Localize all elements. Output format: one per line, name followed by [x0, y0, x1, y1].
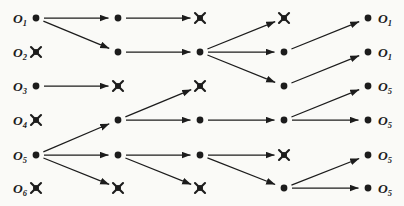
left-label-5: O5 [13, 148, 28, 166]
node-col3-row1 [281, 49, 288, 56]
node-col4-row3 [365, 117, 372, 124]
edge-arrow-c3r5-c4r4 [291, 158, 359, 185]
node-col0-row0 [33, 15, 40, 22]
right-label-5: O5 [378, 148, 393, 166]
node-col3-row5 [281, 185, 288, 192]
right-label-1: O1 [378, 11, 392, 29]
right-label-3: O5 [378, 79, 393, 97]
node-col4-row5 [365, 185, 372, 192]
node-col2-row1 [197, 49, 204, 56]
pruned-node-col2-row2 [195, 81, 205, 91]
node-col3-row2 [281, 83, 288, 90]
right-label-6: O5 [378, 181, 393, 199]
left-label-4: O4 [13, 113, 27, 131]
node-col1-row1 [115, 49, 122, 56]
hypothesis-graph-canvas: O1O2O3O4O5O6O1O1O5O5O5O5 [0, 0, 404, 206]
pruned-node-col0-row5 [31, 183, 41, 193]
pruned-node-col0-row3 [31, 115, 41, 125]
pruned-node-col1-row2 [113, 81, 123, 91]
edge-arrow-c2r4-c3r5 [207, 158, 275, 185]
labels-layer: O1O2O3O4O5O6O1O1O5O5O5O5 [13, 11, 393, 199]
node-col1-row0 [115, 15, 122, 22]
pruned-node-col0-row1 [31, 47, 41, 57]
edges-layer [43, 18, 359, 188]
node-col4-row2 [365, 83, 372, 90]
left-label-2: O2 [13, 45, 28, 63]
edge-arrow-c1r4-c2r5 [125, 158, 191, 184]
pruned-node-col3-row0 [279, 13, 289, 23]
edge-arrow-c2r1-c3r0 [207, 22, 275, 49]
node-col1-row4 [115, 152, 122, 159]
nodes-layer [31, 13, 371, 193]
pruned-node-col2-row5 [195, 183, 205, 193]
left-label-1: O1 [13, 11, 27, 29]
edge-arrow-c0r4-c1r5 [43, 158, 109, 184]
edge-arrow-c3r3-c4r2 [291, 90, 359, 117]
edge-arrow-c0r4-c1r3 [43, 124, 109, 152]
pruned-node-col2-row0 [195, 13, 205, 23]
node-col4-row0 [365, 15, 372, 22]
node-col1-row3 [115, 117, 122, 124]
node-col4-row1 [365, 49, 372, 56]
right-label-4: O5 [378, 113, 393, 131]
hypothesis-graph-figure: O1O2O3O4O5O6O1O1O5O5O5O5 [0, 0, 404, 206]
node-col2-row3 [197, 117, 204, 124]
edge-arrow-c1r3-c2r2 [125, 90, 191, 117]
edge-arrow-c3r2-c4r1 [291, 56, 359, 83]
pruned-node-col1-row5 [113, 183, 123, 193]
node-col2-row4 [197, 152, 204, 159]
right-label-2: O1 [378, 45, 392, 63]
node-col0-row4 [33, 152, 40, 159]
pruned-node-col3-row4 [279, 150, 289, 160]
left-label-3: O3 [13, 79, 28, 97]
node-col3-row3 [281, 117, 288, 124]
node-col4-row4 [365, 152, 372, 159]
edge-arrow-c2r1-c3r2 [207, 55, 275, 82]
node-col0-row2 [33, 83, 40, 90]
edge-arrow-c0r0-c1r1 [43, 21, 109, 48]
left-label-6: O6 [13, 181, 28, 199]
edge-arrow-c3r1-c4r0 [291, 22, 359, 49]
